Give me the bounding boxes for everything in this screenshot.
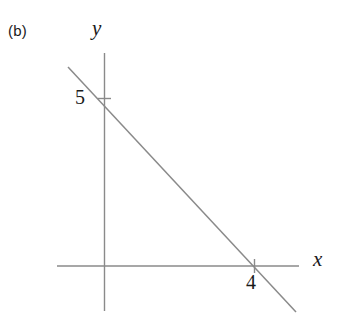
y-axis-label: y	[92, 16, 101, 41]
figure-panel: (b) y x 5 4	[0, 0, 341, 334]
y-tick-label-5: 5	[75, 86, 85, 109]
plot-canvas	[0, 0, 341, 334]
plotted-line	[68, 67, 296, 312]
x-axis-label: x	[313, 247, 322, 272]
x-tick-label-4: 4	[246, 271, 256, 294]
